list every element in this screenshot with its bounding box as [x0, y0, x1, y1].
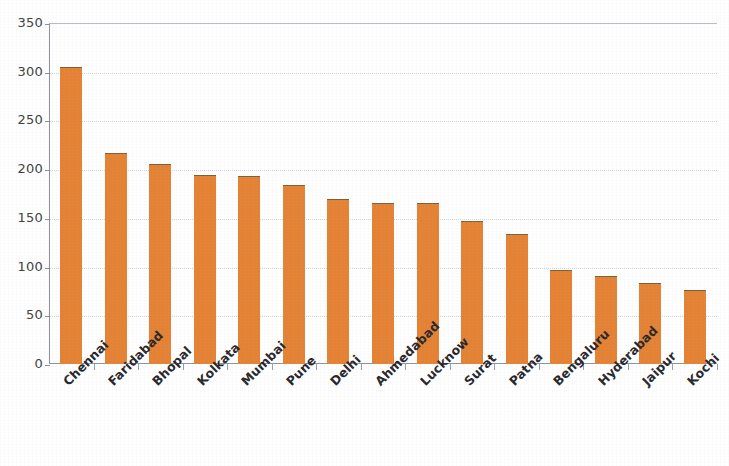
x-axis-tick-label: Pune	[283, 353, 319, 389]
x-axis-labels: ChennaiFaridabadBhopalKolkataMumbaiPuneD…	[0, 0, 729, 466]
x-axis-tick-label: Kolkata	[194, 340, 243, 389]
bar-chart: 050100150200250300350 ChennaiFaridabadBh…	[0, 0, 729, 466]
x-axis-tick-label: Mumbai	[238, 338, 289, 389]
x-axis-tick-label: Delhi	[327, 352, 364, 389]
x-axis-tick-label: Chennai	[60, 337, 111, 388]
x-axis-tick-label: Bhopal	[149, 343, 194, 388]
